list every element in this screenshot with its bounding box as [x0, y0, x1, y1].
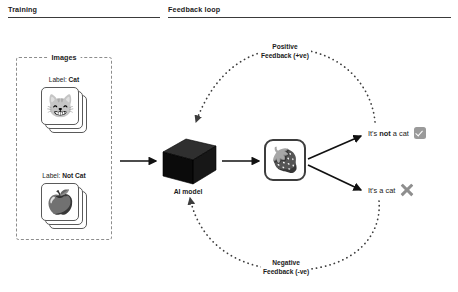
card-label-not-cat: Label: Not Cat	[42, 172, 85, 179]
images-group-title: Images	[48, 53, 81, 62]
feedback-negative-line1: Negative	[263, 258, 309, 267]
feedback-positive-line2: Feedback (+ve)	[261, 51, 309, 60]
inference-input-box[interactable]: 🍓	[264, 139, 306, 181]
arrow-input-to-outcome-a-cat	[308, 165, 361, 190]
card-label-cat-value: Cat	[69, 76, 80, 83]
feedback-caption-negative: Negative Feedback (-ve)	[261, 258, 311, 276]
image-card-stack-not-cat[interactable]: 🍎	[41, 183, 87, 229]
outcome-not-a-cat-text-after: a cat	[391, 129, 409, 138]
black-cube-icon	[163, 139, 216, 184]
outcome-not-a-cat-emphasis: not	[379, 129, 391, 138]
cross-mark-icon	[400, 183, 414, 197]
feedback-negative-line2: Feedback (-ve)	[263, 267, 309, 276]
feedback-positive-line1: Positive	[261, 42, 309, 51]
strawberry-emoji: 🍓	[270, 148, 300, 172]
section-header-feedback-loop: Feedback loop	[168, 5, 220, 14]
outcome-a-cat: It's a cat	[368, 183, 414, 197]
section-header-training: Training	[8, 5, 37, 14]
outcome-not-a-cat-text: It's not a cat	[368, 129, 409, 138]
check-mark-icon	[414, 127, 426, 139]
outcome-a-cat-text: It's a cat	[368, 186, 395, 195]
feedback-caption-positive: Positive Feedback (+ve)	[259, 42, 311, 60]
card-label-cat-prefix: Label:	[49, 76, 69, 83]
arrow-input-to-outcome-not-a-cat	[308, 136, 361, 159]
apple-emoji: 🍎	[41, 183, 79, 221]
ai-model-label: AI model	[160, 188, 216, 195]
card-label-not-cat-value: Not Cat	[62, 172, 85, 179]
card-label-not-cat-prefix: Label:	[42, 172, 62, 179]
cat-face-emoji: 😸	[41, 87, 79, 125]
outcome-not-a-cat: It's not a cat	[368, 127, 426, 139]
outcome-not-a-cat-text-before: It's	[368, 129, 379, 138]
card-label-cat: Label: Cat	[49, 76, 79, 83]
image-card-stack-cat[interactable]: 😸	[41, 87, 87, 133]
